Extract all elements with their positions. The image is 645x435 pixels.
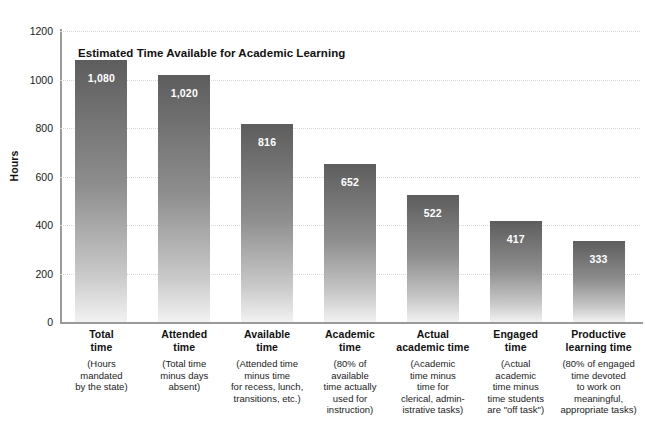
chart-title: Estimated Time Available for Academic Le…	[78, 47, 345, 59]
x-axis-label-title: Availabletime	[224, 328, 311, 353]
bar-chart-figure: Hours 020040060080010001200 Estimated Ti…	[0, 0, 645, 435]
x-axis-label: Academictime(80% ofavailabletime actuall…	[307, 328, 394, 416]
y-tick-label: 200	[0, 268, 53, 280]
y-tick-label: 400	[0, 219, 53, 231]
x-axis-label-title: Actualacademic time	[389, 328, 476, 353]
x-axis-label-description: (Attended timeminus timefor recess, lunc…	[224, 358, 311, 404]
bar: 652	[324, 164, 376, 322]
bar: 1,020	[158, 75, 210, 322]
y-tick-label: 800	[0, 122, 53, 134]
bar-value-label: 816	[241, 136, 293, 148]
x-axis-label-description: (Hoursmandatedby the state)	[58, 358, 145, 393]
x-axis-label: Totaltime(Hoursmandatedby the state)	[58, 328, 145, 393]
x-axis-label: Engagedtime(Actualacademictime minustime…	[472, 328, 559, 416]
bar: 417	[490, 221, 542, 322]
bar-value-label: 417	[490, 233, 542, 245]
y-tick-label: 600	[0, 171, 53, 183]
x-axis-label-description: (80% of engagedtime devotedto work onmea…	[555, 358, 642, 416]
gridline	[60, 31, 640, 32]
y-tick-label: 1000	[0, 74, 53, 86]
x-axis-label: Attendedtime(Total timeminus daysabsent)	[141, 328, 228, 393]
bar-value-label: 333	[573, 253, 625, 265]
x-axis-label: Actualacademic time(Academictime minusti…	[389, 328, 476, 416]
x-axis-label-title: Totaltime	[58, 328, 145, 353]
x-axis-line	[60, 322, 643, 324]
gridline	[60, 80, 640, 81]
x-axis-label-description: (Total timeminus daysabsent)	[141, 358, 228, 393]
x-axis-label: Availabletime(Attended timeminus timefor…	[224, 328, 311, 404]
x-axis-label-description: (Actualacademictime minustime studentsar…	[472, 358, 559, 416]
x-axis-labels: Totaltime(Hoursmandatedby the state)Atte…	[60, 328, 640, 428]
bar: 816	[241, 124, 293, 322]
bar-value-label: 522	[407, 207, 459, 219]
bar: 333	[573, 241, 625, 322]
bar-value-label: 1,020	[158, 87, 210, 99]
x-axis-label-title: Academictime	[307, 328, 394, 353]
plot-area: Estimated Time Available for Academic Le…	[60, 31, 640, 322]
gridline	[60, 128, 640, 129]
y-tick-label: 1200	[0, 25, 53, 37]
x-axis-label-description: (Academictime minustime forclerical, adm…	[389, 358, 476, 416]
x-axis-label-title: Attendedtime	[141, 328, 228, 353]
bar-value-label: 1,080	[75, 72, 127, 84]
x-axis-label: Productivelearning time(80% of engagedti…	[555, 328, 642, 416]
bar: 1,080	[75, 60, 127, 322]
bar: 522	[407, 195, 459, 322]
bar-value-label: 652	[324, 176, 376, 188]
x-axis-label-title: Productivelearning time	[555, 328, 642, 353]
x-axis-label-title: Engagedtime	[472, 328, 559, 353]
x-axis-label-description: (80% ofavailabletime actuallyused forins…	[307, 358, 394, 416]
y-tick-label: 0	[0, 316, 53, 328]
